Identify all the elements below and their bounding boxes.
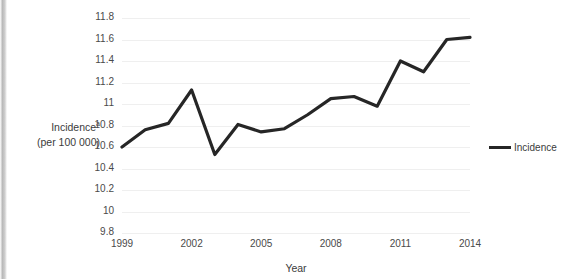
- x-axis-tick-label: 1999: [111, 238, 133, 249]
- y-axis-tick-label: 10.4: [72, 162, 114, 173]
- y-axis-tick-label: 10.8: [72, 119, 114, 130]
- y-axis-tick-label: 10.6: [72, 140, 114, 151]
- page-edge-strip: [0, 0, 7, 279]
- chart-legend: Incidence: [489, 142, 557, 153]
- y-axis-tick-label: 11.2: [72, 76, 114, 87]
- y-axis-tick-label: 11.4: [72, 54, 114, 65]
- y-axis-tick-label: 9.8: [72, 226, 114, 237]
- legend-swatch-incidence: [489, 146, 511, 149]
- y-axis-tick-label: 11: [72, 97, 114, 108]
- x-axis-tick-label: 2005: [250, 238, 272, 249]
- x-axis-tick-label: 2008: [320, 238, 342, 249]
- x-axis-title: Year: [120, 262, 472, 274]
- y-axis-tick-label: 10.2: [72, 183, 114, 194]
- x-axis-tick-label: 2011: [390, 238, 412, 249]
- y-axis-tick-label: 11.8: [72, 11, 114, 22]
- x-axis-tick-label: 2002: [180, 238, 202, 249]
- x-axis-ticks: 199920022005200820112014: [122, 0, 470, 279]
- y-axis-tick-label: 10: [72, 205, 114, 216]
- legend-label-incidence: Incidence: [514, 142, 557, 153]
- x-axis-tick-label: 2014: [459, 238, 481, 249]
- chart-container: Incidencea (per 100 000) 11.811.611.411.…: [0, 0, 576, 279]
- y-axis-ticks: 11.811.611.411.21110.810.610.410.2109.8: [72, 18, 114, 233]
- y-axis-tick-label: 11.6: [72, 33, 114, 44]
